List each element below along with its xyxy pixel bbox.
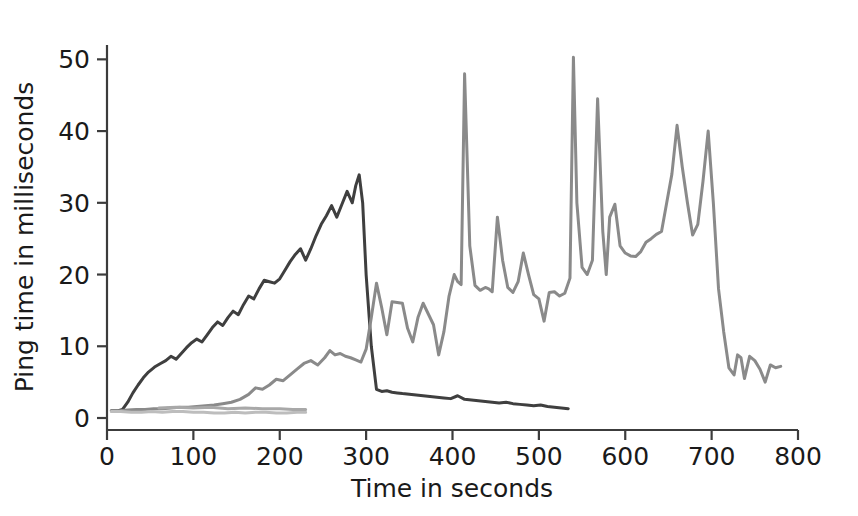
x-tick-labels: 0100200300400500600700800 [99,442,822,471]
y-tick-label-40: 40 [58,117,90,146]
x-tick-label-200: 200 [256,442,304,471]
series-medium [111,57,780,411]
y-tick-label-10: 10 [58,332,90,361]
plot-area [111,57,780,413]
x-tick-label-400: 400 [429,442,477,471]
y-tick-label-50: 50 [58,45,90,74]
x-tick-label-700: 700 [688,442,736,471]
x-tick-label-0: 0 [99,442,115,471]
series-light-upper [159,407,306,409]
x-tick-label-300: 300 [342,442,390,471]
x-tick-label-800: 800 [774,442,822,471]
x-tick-marks [107,430,798,440]
ping-time-line-chart: 0100200300400500600700800 01020304050 Ti… [0,0,858,516]
y-tick-label-30: 30 [58,189,90,218]
y-axis-title: Ping time in milliseconds [10,82,39,393]
y-tick-labels: 01020304050 [58,45,90,433]
x-tick-label-100: 100 [170,442,218,471]
axes [97,45,798,440]
x-tick-label-500: 500 [515,442,563,471]
x-tick-label-600: 600 [601,442,649,471]
y-tick-marks [97,59,107,418]
y-tick-label-0: 0 [74,404,90,433]
chart-figure: 0100200300400500600700800 01020304050 Ti… [0,0,858,516]
series-light [111,412,305,413]
series-dark [111,175,568,411]
y-tick-label-20: 20 [58,261,90,290]
x-axis-title: Time in seconds [350,474,553,503]
series-layer [111,57,780,413]
